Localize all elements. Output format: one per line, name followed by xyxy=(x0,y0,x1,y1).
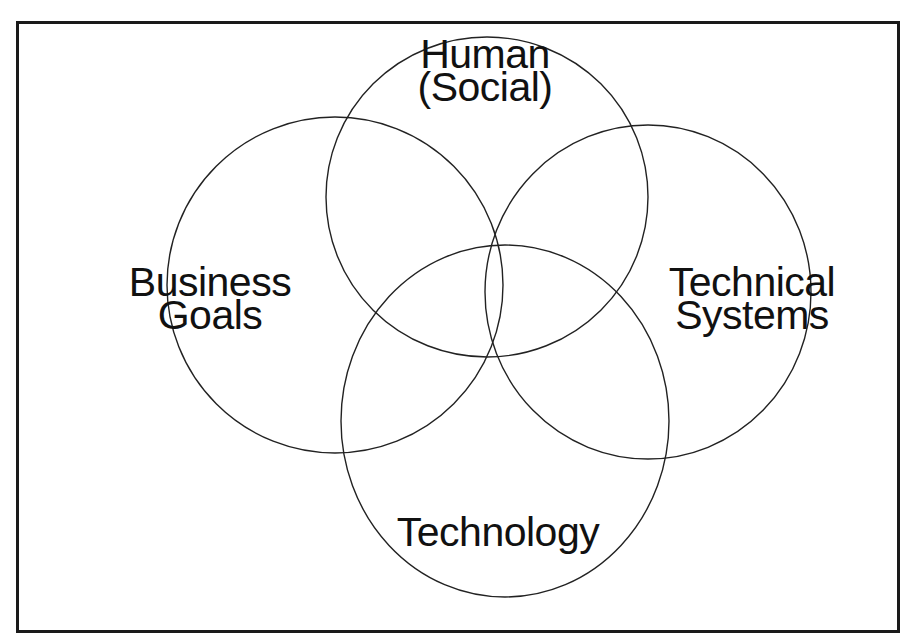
label-technology: Technology xyxy=(390,516,606,549)
label-line: Technology xyxy=(390,516,606,549)
label-human-social: Human (Social) xyxy=(385,38,585,104)
label-line: Systems xyxy=(652,299,852,332)
label-line: (Social) xyxy=(385,71,585,104)
label-business-goals: Business Goals xyxy=(100,266,320,332)
label-technical-systems: Technical Systems xyxy=(652,266,852,332)
